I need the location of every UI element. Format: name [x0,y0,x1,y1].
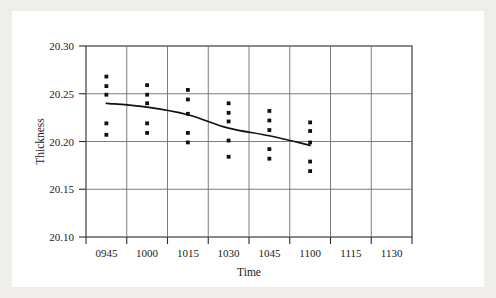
figure-outer-border: 20.30 20.25 20.20 20.15 20.10 0945 1000 … [0,0,496,298]
x-tick-label-2: 1015 [177,247,200,259]
data-point [186,88,190,92]
y-tick-label-0: 20.30 [49,40,74,52]
data-point [227,139,231,143]
x-axis-tick-marks [86,237,412,244]
data-point [145,131,149,135]
data-point [104,75,108,79]
y-axis-tick-marks [79,46,86,237]
x-tick-label-6: 1115 [340,247,362,259]
data-point [267,147,271,151]
y-tick-label-2: 20.20 [49,136,74,148]
data-point [227,101,231,105]
data-point [267,109,271,113]
y-axis-title: Thickness [34,118,46,165]
y-tick-label-1: 20.25 [49,88,74,100]
x-tick-label-5: 1100 [299,247,321,259]
data-point [186,141,190,145]
data-point [104,121,108,125]
data-point [186,98,190,102]
y-tick-label-3: 20.15 [49,183,74,195]
data-point [104,93,108,97]
data-point [308,160,312,164]
data-point [227,111,231,115]
data-point [145,83,149,87]
x-tick-label-1: 1000 [136,247,159,259]
data-point [186,131,190,135]
data-point [308,129,312,133]
data-point [308,121,312,125]
x-axis-title: Time [237,266,261,278]
x-tick-label-7: 1130 [381,247,403,259]
data-point [145,93,149,97]
data-point [267,157,271,161]
data-point [145,121,149,125]
data-point [145,101,149,105]
data-point [308,169,312,173]
x-tick-label-0: 0945 [95,247,118,259]
x-tick-label-4: 1045 [258,247,281,259]
data-point [227,120,231,124]
data-point [104,84,108,88]
data-point [267,128,271,132]
x-tick-label-3: 1030 [218,247,241,259]
figure-canvas: 20.30 20.25 20.20 20.15 20.10 0945 1000 … [12,11,484,287]
data-point [227,155,231,159]
y-tick-label-4: 20.10 [49,231,74,243]
data-point [308,141,312,145]
x-axis-tick-labels: 0945 1000 1015 1030 1045 1100 1115 1130 [95,247,402,259]
thickness-vs-time-scatter-chart: 20.30 20.25 20.20 20.15 20.10 0945 1000 … [12,11,484,287]
data-point [267,119,271,123]
y-axis-tick-labels: 20.30 20.25 20.20 20.15 20.10 [49,40,74,243]
data-point [104,133,108,137]
